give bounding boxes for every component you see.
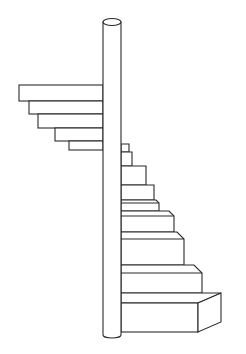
- right-step-2: [121, 152, 132, 166]
- left-step-2: [29, 101, 103, 114]
- right-step-5: [121, 200, 159, 211]
- staircase-drawing: [0, 0, 246, 354]
- left-step-1: [19, 85, 103, 101]
- left-step-3: [38, 114, 103, 128]
- right-step-6: [121, 211, 174, 232]
- right-step-7: [121, 232, 184, 265]
- central-pillar: [103, 19, 121, 339]
- bottom-step-block: [121, 293, 221, 332]
- bottom-block-front: [121, 303, 198, 332]
- right-step-8: [121, 265, 202, 293]
- lower-right-steps: [121, 144, 202, 293]
- right-step-1: [121, 144, 129, 152]
- pillar-top-cap: [103, 19, 121, 26]
- staircase-figure: Spiral staircase line drawing: [0, 0, 246, 354]
- left-step-5: [69, 141, 103, 150]
- pillar-body: [103, 22, 121, 338]
- upper-left-steps: [19, 85, 103, 150]
- right-step-3: [121, 166, 146, 185]
- left-step-4: [55, 128, 103, 141]
- right-step-4: [121, 185, 154, 200]
